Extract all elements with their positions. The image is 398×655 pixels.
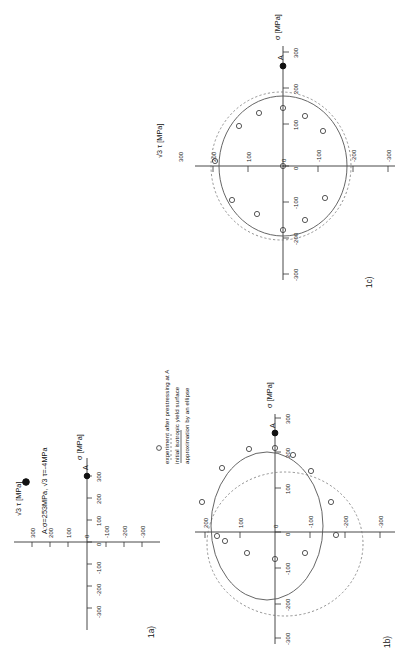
axis-label-tau-1c: √3 τ [MPa]: [155, 123, 164, 158]
tick-1c-tm300: -300: [386, 150, 392, 162]
axis-sigma-1a: [87, 458, 92, 630]
tick-1b-t0: 0: [273, 525, 279, 528]
tick-1b-t100: 100: [238, 518, 244, 528]
tick-1a-t300: 300: [30, 528, 36, 538]
tick-1c-sm200: -200: [293, 233, 299, 245]
point-a-label-1a: A: [81, 465, 90, 470]
axis-label-sigma-1c: σ [MPa]: [273, 14, 282, 40]
data-point-A-1b: [272, 430, 278, 436]
tick-1c-t300: 300: [178, 152, 184, 162]
tick-1b-tm300: -300: [378, 516, 384, 528]
tick-1a-tm300: -300: [140, 526, 146, 538]
panel-1b: σ [MPa] A 300 200 100 0 -100 -200 -300 2…: [195, 378, 398, 655]
tick-1a-tm100: -100: [104, 526, 110, 538]
panel-label-1c: 1c): [365, 276, 374, 288]
tick-1a-s200: 200: [96, 494, 102, 504]
axis-label-tau-1a: √3 τ [MPa]: [14, 481, 23, 516]
legend-filled-marker: [23, 479, 30, 486]
tick-1a-t100: 100: [66, 528, 72, 538]
axis-tau-1b: [195, 532, 395, 538]
tick-1c-tm200: -200: [351, 150, 357, 162]
tick-1a-tm200: -200: [122, 526, 128, 538]
legend-item-approximation: approximation by an ellipse: [183, 387, 190, 464]
tick-1c-t0: 0: [281, 159, 287, 162]
tick-1b-tm200: -200: [343, 516, 349, 528]
panel-label-1b: 1b): [383, 636, 392, 648]
tick-1b-s200: 200: [285, 448, 291, 458]
data-point-A-1c: [280, 63, 286, 69]
tick-1a-sm200: -200: [96, 584, 102, 596]
tick-1a-sm300: -300: [96, 606, 102, 618]
tick-1c-t100: 100: [246, 152, 252, 162]
tick-1a-s300: 300: [96, 472, 102, 482]
axis-label-sigma-1a: σ [MPa]: [75, 434, 84, 460]
tick-1b-t200: 200: [203, 518, 209, 528]
panel-label-1a: 1a): [147, 626, 156, 638]
tick-1a-s100: 100: [96, 516, 102, 526]
data-point-A-1a: [84, 473, 90, 479]
tick-1c-s100: 100: [293, 120, 299, 130]
panel-1a: A:σ=253MPa, √3 τ=-4MPa √: [0, 398, 175, 655]
panel-1c: σ [MPa] √3 τ [MPa] A 300 200 100 0 -100 …: [195, 0, 398, 292]
point-a-label-1c: A: [276, 55, 285, 60]
tick-1b-s100: 100: [285, 484, 291, 494]
tick-1c-s200: 200: [293, 84, 299, 94]
tick-1a-s0: 0: [96, 543, 102, 546]
tick-1c-sm100: -100: [293, 197, 299, 209]
tick-1b-sm300: -300: [285, 633, 291, 645]
tick-1c-sm300: -300: [293, 269, 299, 281]
tick-1a-t200: 200: [48, 528, 54, 538]
tick-1c-tm100: -100: [316, 150, 322, 162]
legend-item-initial-surface: initial isotropic yield surface: [173, 387, 180, 464]
tick-1b-s0: 0: [285, 533, 291, 536]
legend-item-experiment: experiment after prestressing at A: [163, 369, 170, 464]
tick-1b-tm100: -100: [308, 516, 314, 528]
tick-1a-sm100: -100: [96, 562, 102, 574]
tick-1a-t0: 0: [84, 535, 90, 538]
tick-1b-s300: 300: [285, 414, 291, 424]
tick-1b-sm100: -100: [285, 563, 291, 575]
tick-1c-t200: 200: [211, 152, 217, 162]
tick-1b-sm200: -200: [285, 599, 291, 611]
data-points-1c: [212, 105, 327, 232]
tick-1c-s300: 300: [293, 48, 299, 58]
axis-sigma-1c: [283, 46, 289, 280]
legend-open-circle-icon: [157, 446, 162, 451]
axis-label-sigma-1b: σ [MPa]: [265, 382, 274, 408]
point-a-label-1b: A: [268, 423, 277, 428]
tick-1c-s0: 0: [293, 167, 299, 170]
